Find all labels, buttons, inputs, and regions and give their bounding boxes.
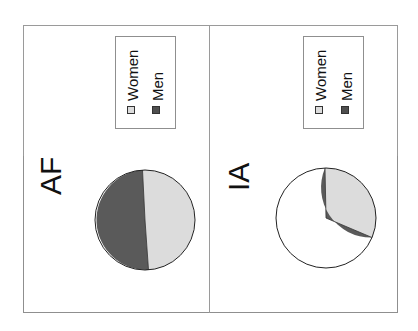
pie-slice-women-af xyxy=(143,170,195,270)
legend-swatch-women-af xyxy=(127,106,135,114)
legend-label-men-ia: Men xyxy=(338,72,355,101)
panel-title-ia: IA xyxy=(222,163,256,191)
pie-slice-men-af xyxy=(96,170,148,270)
legend-swatch-men-af xyxy=(152,106,160,114)
legend-swatch-women-ia xyxy=(315,106,323,114)
pie-chart-af xyxy=(95,170,195,270)
pie-slice-women-ia xyxy=(325,168,376,238)
panel-divider xyxy=(209,25,210,313)
legend-swatch-men-ia xyxy=(341,106,349,114)
panel-title-af: AF xyxy=(34,157,68,195)
legend-label-men-af: Men xyxy=(149,72,166,101)
legend-label-women-af: Women xyxy=(124,50,141,101)
pie-chart-ia xyxy=(276,168,376,268)
legend-label-women-ia: Women xyxy=(312,50,329,101)
